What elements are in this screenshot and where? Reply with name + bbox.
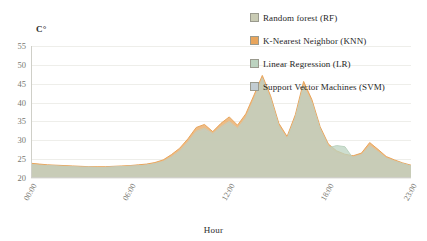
y-tick-label: 20 [18, 173, 27, 183]
legend-item[interactable]: Linear Regression (LR) [250, 52, 426, 75]
y-tick-label: 35 [18, 116, 27, 126]
legend-item[interactable]: Support Vector Machines (SVM) [250, 75, 426, 98]
gridline [31, 178, 411, 179]
legend-item[interactable]: Random forest (RF) [250, 6, 426, 29]
y-tick-label: 45 [18, 79, 27, 89]
legend-swatch-icon [250, 13, 259, 22]
y-tick-label: 50 [18, 60, 27, 70]
x-tick-label: 18:00 [319, 182, 336, 202]
y-tick-label: 55 [18, 41, 27, 51]
x-tick-label: 00:00 [22, 182, 39, 202]
y-tick-label: 25 [18, 154, 27, 164]
x-axis-title: Hour [0, 225, 427, 235]
legend-item-label: Random forest (RF) [263, 13, 337, 23]
legend-item-label: Linear Regression (LR) [263, 59, 351, 69]
y-axis-line [31, 46, 32, 178]
legend: Random forest (RF)K-Nearest Neighbor (KN… [250, 6, 426, 98]
legend-swatch-icon [250, 82, 259, 91]
legend-item-label: K-Nearest Neighbor (KNN) [263, 36, 366, 46]
y-tick-label: 40 [18, 98, 27, 108]
legend-swatch-icon [250, 59, 259, 68]
x-tick-label: 23:00 [402, 182, 419, 202]
x-tick-label: 06:00 [121, 182, 138, 202]
y-axis-unit-label: C° [36, 24, 47, 34]
legend-swatch-icon [250, 36, 259, 45]
temperature-prediction-chart: C° 5550454035302520 00:0006:0012:0018:00… [0, 0, 427, 241]
y-tick-label: 30 [18, 135, 27, 145]
x-axis-line [31, 177, 411, 178]
legend-item-label: Support Vector Machines (SVM) [263, 82, 385, 92]
x-tick-label: 12:00 [220, 182, 237, 202]
legend-item[interactable]: K-Nearest Neighbor (KNN) [250, 29, 426, 52]
